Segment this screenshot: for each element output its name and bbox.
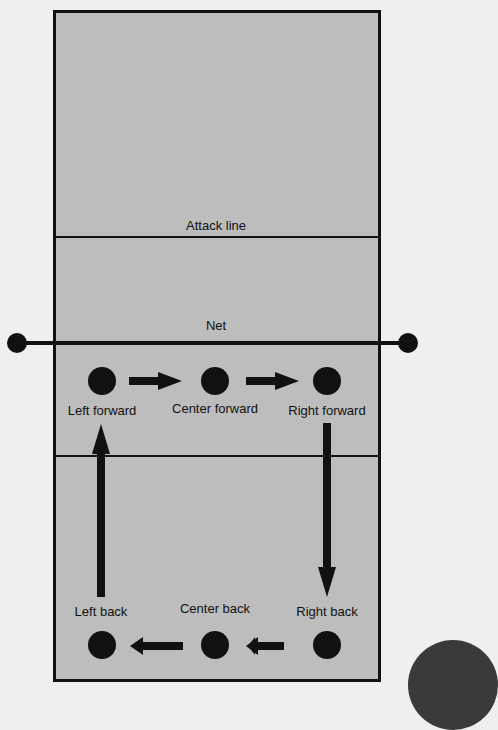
arrow-right-icon — [246, 377, 276, 385]
corner-decoration — [408, 640, 498, 730]
arrow-right-icon — [129, 377, 159, 385]
